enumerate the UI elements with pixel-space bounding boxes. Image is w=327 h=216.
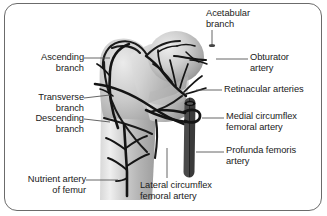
label-transverse-branch: Transverse branch (12, 92, 84, 114)
label-retinacular-arteries: Retinacular arteries (224, 84, 324, 95)
label-descending-branch: Descending branch (10, 113, 84, 135)
figure-panel: Ascending branch Transverse branch Desce… (0, 0, 327, 216)
label-medial-circumflex-femoral-artery: Medial circumflex femoral artery (226, 111, 322, 133)
label-obturator-artery: Obturator artery (250, 52, 316, 74)
label-ascending-branch: Ascending branch (14, 52, 84, 74)
label-nutrient-artery-of-femur: Nutrient artery of femur (10, 174, 86, 196)
profunda-femoris-lumen-inner (187, 102, 193, 105)
label-profunda-femoris-artery: Profunda femoris artery (226, 145, 322, 167)
profunda-femoris-vessel (189, 103, 190, 172)
label-acetabular-branch: Acetabular branch (206, 8, 284, 30)
label-lateral-circumflex-femoral-artery: Lateral circumflex femoral artery (140, 180, 236, 202)
retinacular-fan-5 (186, 88, 206, 94)
